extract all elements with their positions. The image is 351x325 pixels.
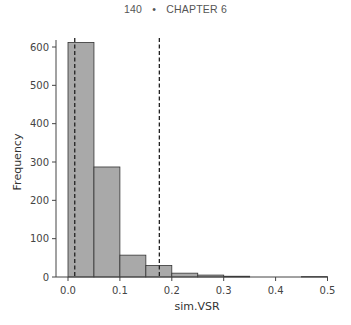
y-tick-label: 500 bbox=[30, 80, 49, 91]
histogram-bar bbox=[94, 167, 120, 277]
y-tick-label: 400 bbox=[30, 118, 49, 129]
x-axis-title: sim.VSR bbox=[174, 300, 220, 313]
x-tick-label: 0.1 bbox=[112, 285, 128, 296]
histogram-bars bbox=[68, 42, 328, 277]
x-tick-label: 0.3 bbox=[216, 285, 232, 296]
x-tick-label: 0.2 bbox=[164, 285, 180, 296]
histogram-chart: 01002003004005006000.00.10.20.30.40.5 si… bbox=[0, 0, 351, 325]
x-tick-label: 0.4 bbox=[268, 285, 284, 296]
y-tick-label: 0 bbox=[43, 272, 49, 283]
histogram-bar bbox=[68, 42, 94, 277]
y-tick-label: 200 bbox=[30, 195, 49, 206]
x-tick-label: 0.0 bbox=[60, 285, 76, 296]
y-tick-label: 600 bbox=[30, 42, 49, 53]
x-tick-label: 0.5 bbox=[320, 285, 336, 296]
y-tick-label: 100 bbox=[30, 233, 49, 244]
y-axis-title: Frequency bbox=[11, 133, 24, 190]
y-tick-label: 300 bbox=[30, 157, 49, 168]
histogram-bar bbox=[120, 255, 146, 277]
histogram-bar bbox=[172, 273, 198, 277]
